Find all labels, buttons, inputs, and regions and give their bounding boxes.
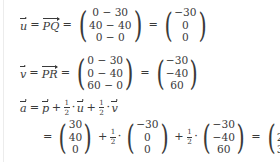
left-margin-rule	[3, 0, 4, 162]
vector-a-symbol: a	[20, 100, 27, 114]
vector-pr-symbol: PR	[42, 65, 58, 80]
equals-sign: =	[137, 67, 152, 78]
column-vector-v-result: ( −30 −40 60 )	[154, 54, 201, 92]
vector-entries: 0 − 30 40 − 40 0 − 0	[88, 6, 132, 44]
vector-entry: 0 − 40	[87, 67, 123, 80]
equation-line-a-formula: a = p + 1 2 · u + 1 2 · v	[20, 99, 118, 116]
column-vector-a-result: ( 0 20 30 )	[265, 118, 280, 156]
vector-entry: 0 − 0	[96, 31, 125, 44]
plus-sign: +	[84, 102, 98, 113]
vector-entries: 30 40 0	[68, 118, 82, 156]
vector-pq-symbol: PQ	[43, 17, 60, 32]
column-vector-p: ( 30 40 0 )	[56, 118, 94, 156]
plus-sign: +	[95, 131, 109, 142]
equals-sign: =	[26, 67, 41, 78]
column-vector-v-expression: ( 0 − 30 0 − 40 60 − 0 )	[74, 54, 136, 92]
fraction-one-half: 1 2	[110, 128, 116, 145]
fraction-numerator: 1	[187, 128, 193, 136]
fraction-denominator: 2	[187, 138, 193, 146]
multiplication-dot: ·	[116, 131, 123, 142]
equals-sign: =	[146, 19, 161, 30]
equation-line-u: u = PQ = ( 0 − 30 40 − 40 0 − 0 ) = ( −3…	[20, 6, 210, 44]
column-vector-v: ( −30 −40 60 )	[200, 118, 247, 156]
vector-entry: −30	[136, 118, 158, 131]
vector-entries: 0 20 30	[276, 118, 280, 156]
fraction-one-half: 1 2	[187, 128, 193, 145]
vector-u-symbol: u	[20, 18, 27, 32]
column-vector-u-expression: ( 0 − 30 40 − 40 0 − 0 )	[76, 6, 145, 44]
vector-entry: 40	[69, 131, 82, 144]
equals-sign: =	[40, 131, 55, 142]
fraction-numerator: 1	[64, 99, 70, 107]
plus-sign: +	[172, 131, 186, 142]
vector-entries: −30 −40 60	[165, 54, 188, 92]
fraction-denominator: 2	[99, 109, 105, 117]
vector-entry: 0	[182, 19, 189, 32]
vector-p-symbol: p	[42, 100, 49, 114]
vector-entry: −30	[166, 54, 188, 67]
vector-entry: 60	[170, 79, 183, 92]
math-worksheet: u = PQ = ( 0 − 30 40 − 40 0 − 0 ) = ( −3…	[0, 0, 280, 162]
equals-sign: =	[58, 67, 73, 78]
vector-entry: −40	[166, 67, 188, 80]
vector-entry: 30	[277, 143, 280, 156]
vector-entry: 60 − 0	[87, 79, 123, 92]
vector-entry: −40	[213, 131, 235, 144]
vector-entry: 40 − 40	[89, 19, 132, 32]
vector-entries: −30 0 0	[136, 118, 159, 156]
equals-sign: =	[60, 19, 75, 30]
fraction-numerator: 1	[110, 128, 116, 136]
equals-sign: =	[248, 131, 263, 142]
fraction-denominator: 2	[110, 138, 116, 146]
vector-entry: 60	[217, 143, 230, 156]
vector-v-symbol: v	[111, 100, 117, 114]
multiplication-dot: ·	[193, 131, 200, 142]
vector-entry: 30	[69, 118, 82, 131]
column-vector-u: ( −30 0 0 )	[124, 118, 171, 156]
vector-entry: −30	[213, 118, 235, 131]
equals-sign: =	[27, 19, 42, 30]
vector-entry: 0	[144, 131, 151, 144]
vector-entry: 0 − 30	[92, 6, 128, 19]
vector-entry: 0	[182, 31, 189, 44]
fraction-numerator: 1	[99, 99, 105, 107]
vector-entry: −30	[174, 6, 196, 19]
vector-entry: 0	[72, 143, 79, 156]
column-vector-u-result: ( −30 0 0 )	[162, 6, 209, 44]
vector-entry: 0	[144, 143, 151, 156]
vector-entries: −30 0 0	[174, 6, 197, 44]
equals-sign: =	[27, 102, 42, 113]
vector-entry: 0 − 30	[87, 54, 123, 67]
vector-u-symbol: u	[77, 100, 84, 114]
equation-line-a-computation: = ( 30 40 0 ) + 1 2 · ( −30 0 0 )	[40, 118, 280, 156]
fraction-one-half: 1 2	[99, 99, 105, 116]
equation-line-v: v = PR = ( 0 − 30 0 − 40 60 − 0 ) = ( −3…	[20, 54, 201, 92]
vector-v-symbol: v	[20, 66, 26, 80]
fraction-denominator: 2	[64, 109, 70, 117]
fraction-one-half: 1 2	[64, 99, 70, 116]
vector-entries: −30 −40 60	[212, 118, 235, 156]
plus-sign: +	[49, 102, 63, 113]
vector-entry: 20	[277, 131, 280, 144]
vector-entries: 0 − 30 0 − 40 60 − 0	[87, 54, 124, 92]
